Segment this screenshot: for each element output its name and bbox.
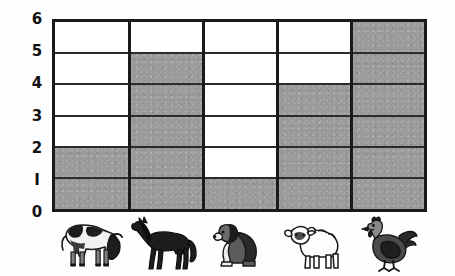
chicken-icon [359,216,419,274]
category-icon-row [52,214,427,276]
category-dog [202,214,276,276]
y-axis: 6 5 4 3 2 I 0 [24,19,50,212]
category-chicken [351,214,427,276]
y-tick-1: I [24,172,50,188]
column-divider-4 [350,22,353,209]
gridline-y2 [55,146,424,148]
y-tick-5: 5 [24,43,50,59]
bar-horse [129,53,203,209]
plot-inner [55,22,424,209]
cow-icon [56,216,124,268]
plot-area [52,19,427,212]
y-tick-4: 4 [24,75,50,91]
y-tick-6: 6 [24,11,50,27]
y-tick-2: 2 [24,140,50,156]
y-tick-0: 0 [24,204,50,220]
bar-dog [203,178,277,209]
horse-icon [130,216,200,272]
category-horse [127,214,202,276]
sheep-icon [283,216,345,271]
gridline-y1 [55,177,424,179]
gridline-y5 [55,52,424,54]
dog-icon [210,216,268,268]
gridline-y4 [55,83,424,85]
category-cow [52,214,127,276]
pictograph-bar-chart: 6 5 4 3 2 I 0 [0,0,455,276]
column-divider-3 [276,22,279,209]
gridline-y3 [55,115,424,117]
column-divider-1 [128,22,131,209]
y-tick-3: 3 [24,108,50,124]
column-divider-2 [202,22,205,209]
category-sheep [276,214,351,276]
